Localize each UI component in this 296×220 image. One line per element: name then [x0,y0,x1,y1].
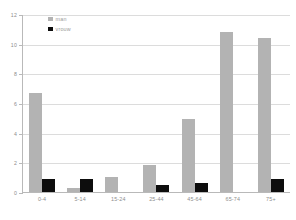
x-axis-tick-label: 65-74 [214,196,252,202]
y-axis-tick-mark [19,74,22,75]
y-axis-tick-mark [19,104,22,105]
bar-group [137,14,175,192]
x-axis-line [22,192,290,193]
x-axis-tick-label: 25-44 [137,196,175,202]
y-axis-tick-label: 10 [11,42,17,48]
x-axis-tick-label: 45-64 [176,196,214,202]
bar-man [258,38,271,192]
legend-label-man: man [56,16,67,22]
x-axis-tick-label: 0-4 [23,196,61,202]
x-axis-tick-label: 15-24 [99,196,137,202]
bar-group [61,14,99,192]
x-axis-tick-label: 5-14 [61,196,99,202]
y-axis-tick-mark [19,193,22,194]
bar-group [252,14,290,192]
legend: man vrouw [48,16,71,32]
y-axis-tick-label: 4 [14,131,17,137]
bar-man [29,93,42,192]
bar-pair [258,38,284,192]
bar-pair [67,179,93,192]
bar-pair [182,119,208,192]
x-axis-tick-label: 75+ [252,196,290,202]
bar-chart: 024681012 0-45-1415-2425-4445-6465-7475+… [0,0,296,220]
y-axis-tick-mark [19,163,22,164]
y-axis-tick-label: 2 [14,160,17,166]
legend-label-vrouw: vrouw [56,26,71,32]
bar-vrouw [80,179,93,192]
bar-group [99,14,137,192]
bar-pair [220,32,246,192]
y-axis-tick-mark [19,134,22,135]
bar-man [143,165,156,192]
y-axis-tick-mark [19,45,22,46]
legend-item-man: man [48,16,71,22]
bar-man [67,188,80,192]
bar-man [105,177,118,192]
bar-groups [23,14,290,192]
bar-pair [143,165,169,192]
y-axis-tick-label: 0 [14,190,17,196]
y-axis-tick-label: 6 [14,101,17,107]
bar-man [220,32,233,192]
bar-vrouw [195,183,208,192]
bar-pair [105,177,131,192]
bar-man [182,119,195,192]
plot-area: 024681012 [22,15,290,193]
bar-vrouw [42,179,55,192]
y-axis-tick-label: 12 [11,12,17,18]
legend-item-vrouw: vrouw [48,26,71,32]
legend-swatch-vrouw [48,27,53,32]
bar-group [23,14,61,192]
legend-swatch-man [48,17,53,22]
y-axis-tick-label: 8 [14,71,17,77]
x-axis-tick-labels: 0-45-1415-2425-4445-6465-7475+ [23,196,290,202]
bar-group [176,14,214,192]
bar-vrouw [271,179,284,192]
y-axis-tick-mark [19,15,22,16]
bar-vrouw [156,185,169,192]
bar-group [214,14,252,192]
bar-pair [29,93,55,192]
